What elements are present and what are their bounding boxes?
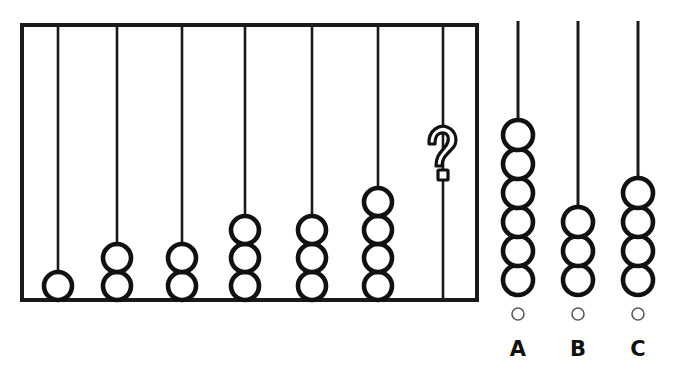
option-B-label: B [570, 337, 586, 361]
rod-6-bead-2 [364, 244, 392, 272]
option-C-radio-button[interactable] [632, 308, 644, 320]
abacus-rod-3 [168, 25, 196, 300]
abacus-rod-4 [231, 25, 259, 300]
abacus-rods-group [44, 25, 443, 300]
puzzle-canvas: ABC [0, 0, 679, 375]
answer-options-group: ABC [503, 21, 653, 361]
option-C-bead-4 [623, 178, 653, 208]
option-A-label: A [510, 337, 527, 361]
option-A-bead-1 [503, 265, 533, 295]
rod-1-bead-1 [44, 272, 72, 300]
option-B-bead-3 [563, 207, 593, 237]
answer-option-C[interactable]: C [623, 21, 653, 361]
option-B-bead-2 [563, 236, 593, 266]
option-B-bead-1 [563, 265, 593, 295]
rod-6-bead-4 [364, 188, 392, 216]
abacus-rod-6 [364, 25, 392, 300]
option-C-bead-2 [623, 236, 653, 266]
rod-4-bead-3 [231, 216, 259, 244]
option-A-bead-3 [503, 207, 533, 237]
option-B-radio-button[interactable] [572, 308, 584, 320]
rod-4-bead-2 [231, 244, 259, 272]
option-C-bead-1 [623, 265, 653, 295]
rod-5-bead-1 [298, 272, 326, 300]
abacus-rod-5 [298, 25, 326, 300]
rod-5-bead-3 [298, 216, 326, 244]
option-C-bead-3 [623, 207, 653, 237]
rod-5-bead-2 [298, 244, 326, 272]
option-A-bead-2 [503, 236, 533, 266]
option-A-radio-button[interactable] [512, 308, 524, 320]
question-mark-marker [429, 126, 456, 180]
rod-3-bead-2 [168, 244, 196, 272]
question-mark-dot-icon [438, 170, 448, 180]
option-A-bead-5 [503, 149, 533, 179]
abacus-rod-2 [103, 25, 131, 300]
abacus-frame-group [22, 25, 477, 300]
rod-3-bead-1 [168, 272, 196, 300]
rod-6-bead-1 [364, 272, 392, 300]
abacus-rod-1 [44, 25, 72, 300]
rod-6-bead-3 [364, 216, 392, 244]
option-A-bead-4 [503, 178, 533, 208]
rod-2-bead-1 [103, 272, 131, 300]
abacus-puzzle-illustration: ABC [0, 0, 679, 375]
option-C-label: C [630, 337, 645, 361]
answer-option-B[interactable]: B [563, 21, 593, 361]
rod-4-bead-1 [231, 272, 259, 300]
rod-2-bead-2 [103, 244, 131, 272]
option-A-bead-6 [503, 120, 533, 150]
answer-option-A[interactable]: A [503, 21, 533, 361]
